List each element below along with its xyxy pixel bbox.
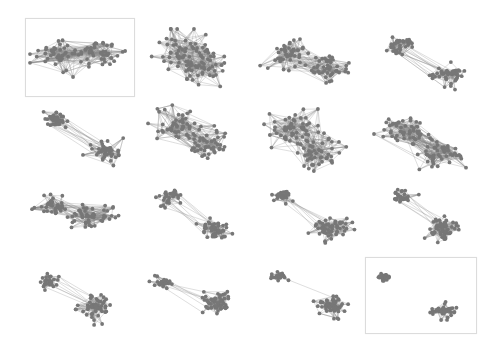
node <box>153 274 157 278</box>
node <box>117 153 121 157</box>
node <box>90 305 94 309</box>
node <box>59 209 63 213</box>
node <box>337 309 341 313</box>
node <box>214 234 218 238</box>
node <box>214 73 218 77</box>
node <box>295 48 299 52</box>
node <box>395 134 399 138</box>
node <box>96 314 100 318</box>
node <box>108 62 112 66</box>
node <box>184 39 188 43</box>
node <box>284 53 288 57</box>
node <box>344 145 348 149</box>
node <box>161 130 165 134</box>
node <box>108 217 112 221</box>
node <box>79 50 83 54</box>
node <box>306 231 310 235</box>
node <box>176 54 180 58</box>
node <box>453 151 457 155</box>
node <box>447 149 451 153</box>
node <box>121 136 125 140</box>
node <box>159 204 163 208</box>
node <box>295 131 299 135</box>
node <box>206 68 210 72</box>
node <box>379 272 383 276</box>
node <box>222 135 226 139</box>
node <box>57 275 61 279</box>
node <box>353 228 357 232</box>
node <box>85 313 89 317</box>
node <box>279 133 283 137</box>
node <box>347 61 351 65</box>
node <box>85 57 89 61</box>
node <box>443 237 447 241</box>
graph-panel-4 <box>375 25 475 95</box>
node <box>223 145 227 149</box>
node <box>41 276 45 280</box>
node <box>111 205 115 209</box>
node <box>432 156 436 160</box>
node <box>334 69 338 73</box>
node <box>443 85 447 89</box>
node <box>436 241 440 245</box>
node <box>419 132 423 136</box>
node <box>102 57 106 61</box>
node <box>453 310 457 314</box>
node <box>71 75 75 79</box>
node <box>185 122 189 126</box>
node <box>454 147 458 151</box>
node <box>432 162 436 166</box>
node <box>444 219 448 223</box>
node <box>437 153 441 157</box>
node <box>54 117 58 121</box>
node <box>77 209 81 213</box>
node <box>385 49 389 53</box>
node <box>428 227 432 231</box>
node <box>293 54 297 58</box>
node <box>428 154 432 158</box>
node <box>207 152 211 156</box>
node <box>382 128 386 132</box>
node <box>410 45 414 49</box>
node <box>330 147 334 151</box>
node <box>156 129 160 133</box>
node <box>189 42 193 46</box>
node <box>225 226 229 230</box>
node <box>192 47 196 51</box>
node <box>104 152 108 156</box>
node <box>153 283 157 287</box>
node <box>316 130 320 134</box>
node <box>224 222 228 226</box>
node <box>334 232 338 236</box>
node <box>43 52 47 56</box>
node <box>442 233 446 237</box>
node <box>221 224 225 228</box>
node <box>407 132 411 136</box>
node <box>205 235 209 239</box>
node <box>403 192 407 196</box>
node <box>97 299 101 303</box>
node <box>453 227 457 231</box>
node <box>389 131 393 135</box>
node <box>418 121 422 125</box>
node <box>451 220 455 224</box>
node <box>170 103 174 107</box>
node <box>311 140 315 144</box>
node <box>66 215 70 219</box>
node <box>323 56 327 60</box>
node <box>408 136 412 140</box>
node <box>210 306 214 310</box>
node <box>272 198 276 202</box>
node <box>409 116 413 120</box>
node <box>213 69 217 73</box>
node <box>216 135 220 139</box>
node <box>423 236 427 240</box>
node <box>204 222 208 226</box>
graph-panel-14 <box>140 260 240 330</box>
node <box>190 63 194 67</box>
node <box>204 33 208 37</box>
node <box>345 216 349 220</box>
node <box>79 60 83 64</box>
node <box>57 53 61 57</box>
node <box>387 275 391 279</box>
